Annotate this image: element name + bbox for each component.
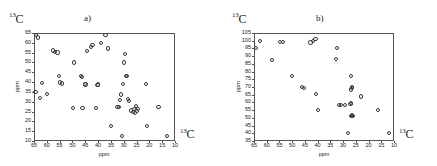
data-point [165, 134, 169, 138]
x-axis-tick-label: 25 [353, 143, 359, 149]
data-point [136, 107, 140, 111]
data-point [55, 50, 59, 54]
y-axis-tick-label: 60 [18, 40, 31, 46]
data-point [314, 92, 318, 96]
data-point [96, 82, 100, 86]
data-point [72, 60, 76, 64]
data-point [120, 134, 124, 138]
data-point [144, 82, 148, 86]
x-axis-tick-label: 35 [327, 143, 333, 149]
panel-a-axis-nucleus-sup: 13 [180, 127, 187, 135]
y-axis-tick [32, 72, 34, 73]
data-point [127, 99, 131, 103]
data-point [71, 106, 75, 110]
x-axis-tick-label: 65 [31, 143, 37, 149]
data-point [281, 40, 285, 44]
y-axis-tick [252, 95, 254, 96]
figure-root: 13C a) ppm ppm 13C 656055504540353025201… [0, 0, 437, 166]
panel-a-axis-nucleus-label: 13C [180, 128, 195, 140]
y-axis-tick-label: 90 [238, 53, 251, 59]
panel-b-axis-nucleus-sup: 13 [399, 127, 406, 135]
data-point [40, 81, 44, 85]
y-axis-tick-label: 45 [238, 123, 251, 129]
panel-b-letter: b) [316, 14, 324, 23]
data-point [60, 81, 64, 85]
panel-a-plot-area [34, 33, 175, 141]
panel-b-xaxis-title: ppm [319, 152, 330, 158]
x-axis-tick-label: 20 [146, 143, 152, 149]
y-axis-tick [32, 82, 34, 83]
data-point [122, 60, 126, 64]
y-axis-tick-label: 35 [238, 138, 251, 144]
y-axis-tick [32, 112, 34, 113]
x-axis-tick-label: 10 [172, 143, 178, 149]
y-axis-tick-label: 105 [238, 30, 251, 36]
y-axis-tick [252, 33, 254, 34]
x-axis-tick-label: 40 [95, 143, 101, 149]
data-point [119, 92, 123, 96]
y-axis-tick-label: 40 [238, 131, 251, 137]
y-axis-tick-label: 20 [18, 119, 31, 125]
data-point [94, 106, 98, 110]
data-point [109, 124, 113, 128]
panel-a-corner-nucleus-label: 13C [9, 10, 24, 26]
y-axis-tick [32, 62, 34, 63]
data-point [387, 131, 391, 135]
y-axis-tick-label: 65 [238, 92, 251, 98]
data-point [270, 58, 274, 62]
y-axis-tick-label: 10 [18, 138, 31, 144]
data-point [117, 105, 121, 109]
y-axis-tick-label: 55 [18, 50, 31, 56]
x-axis-tick-label: 35 [108, 143, 114, 149]
panel-b-axis-nucleus-element: C [406, 127, 414, 141]
data-point [349, 74, 353, 78]
y-axis-tick-label: 60 [238, 100, 251, 106]
x-axis-tick-label: 30 [121, 143, 127, 149]
panel-a-corner-nucleus-element: C [16, 12, 24, 26]
data-point [145, 124, 149, 128]
panel-a-xaxis-title: ppm [99, 152, 110, 158]
data-point [45, 92, 49, 96]
y-axis-tick-label: 55 [238, 107, 251, 113]
data-point [258, 39, 262, 43]
data-point [38, 96, 42, 100]
y-axis-tick-label: 50 [238, 115, 251, 121]
y-axis-tick [32, 33, 34, 34]
y-axis-tick [252, 72, 254, 73]
data-point [99, 41, 103, 45]
y-axis-tick [252, 79, 254, 80]
data-point [346, 131, 350, 135]
y-axis-tick [252, 133, 254, 134]
y-axis-tick-label: 45 [18, 70, 31, 76]
data-point [339, 103, 343, 107]
y-axis-tick-label: 25 [18, 109, 31, 115]
y-axis-tick [252, 141, 254, 142]
y-axis-tick [32, 43, 34, 44]
y-axis-tick [252, 64, 254, 65]
data-point [103, 33, 107, 37]
data-point [90, 43, 94, 47]
x-axis-tick-label: 60 [264, 143, 270, 149]
y-axis-tick [252, 102, 254, 103]
y-axis-tick-label: 85 [238, 61, 251, 67]
y-axis-tick [252, 126, 254, 127]
y-axis-tick-label: 40 [18, 79, 31, 85]
data-point [335, 46, 339, 50]
x-axis-tick-label: 45 [302, 143, 308, 149]
y-axis-tick-label: 35 [18, 89, 31, 95]
panel-a-letter: a) [84, 14, 91, 23]
data-point [349, 101, 353, 105]
data-point [118, 98, 122, 102]
data-point [80, 106, 84, 110]
x-axis-tick-label: 50 [69, 143, 75, 149]
x-axis-tick-label: 10 [391, 143, 397, 149]
data-point [359, 94, 363, 98]
x-axis-tick-label: 50 [289, 143, 295, 149]
data-point [125, 74, 129, 78]
x-axis-tick-label: 40 [315, 143, 321, 149]
panel-a-axis-nucleus-element: C [187, 127, 195, 141]
x-axis-tick-label: 55 [276, 143, 282, 149]
y-axis-tick-label: 65 [18, 30, 31, 36]
y-axis-tick [252, 87, 254, 88]
y-axis-tick [252, 48, 254, 49]
